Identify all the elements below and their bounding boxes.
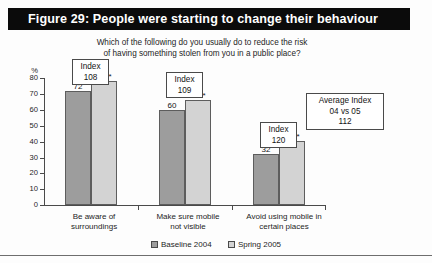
category-label-3-line-2: certain places [234, 222, 334, 232]
bar-baseline-2004-group-1 [65, 91, 91, 205]
index-callout-group-2: Index 109 [166, 72, 203, 98]
bar-baseline-2004-group-2 [159, 110, 185, 205]
y-tick-30 [40, 158, 44, 159]
y-tick-50 [40, 126, 44, 127]
y-tick-label-60: 60 [18, 106, 38, 114]
category-label-3: Avoid using mobile in certain places [234, 212, 334, 232]
y-tick-label-20: 20 [18, 169, 38, 177]
y-tick-label-0: 0 [18, 201, 38, 209]
y-tick-label-80: 80 [18, 74, 38, 82]
bottom-divider [0, 255, 432, 256]
y-tick-80 [40, 78, 44, 79]
index-callout-label-1: Index [73, 62, 108, 73]
x-tick-1 [138, 205, 139, 210]
legend-swatch-spring-icon [228, 241, 235, 248]
legend-label-spring-2005: Spring 2005 [238, 240, 281, 249]
category-label-2: Make sure mobile not visible [142, 212, 234, 232]
legend-item-spring-2005: Spring 2005 [228, 240, 281, 249]
category-label-3-line-1: Avoid using mobile in [234, 212, 334, 222]
bar-spring-2005-group-2 [185, 100, 211, 205]
category-label-2-line-1: Make sure mobile [142, 212, 234, 222]
average-index-line-1: Average Index [307, 96, 383, 107]
figure-title: Figure 29: People were starting to chang… [28, 11, 408, 27]
index-callout-label-3: Index [261, 125, 296, 136]
bar-baseline-2004-group-3 [253, 154, 279, 205]
bar-value-baseline-group-2: 60 [154, 101, 190, 110]
category-label-1-line-1: Be aware of [50, 212, 138, 222]
legend-item-baseline-2004: Baseline 2004 [151, 240, 212, 249]
figure-subtitle: Which of the following do you usually do… [52, 38, 352, 59]
index-callout-group-1: Index 108 [72, 59, 109, 85]
y-tick-label-50: 50 [18, 122, 38, 130]
legend-swatch-baseline-icon [151, 241, 158, 248]
category-label-1: Be aware of surroundings [50, 212, 138, 232]
y-tick-10 [40, 189, 44, 190]
y-tick-0 [40, 205, 44, 206]
x-tick-3 [325, 205, 326, 210]
chart-legend: Baseline 2004 Spring 2005 [0, 240, 432, 249]
y-tick-label-40: 40 [18, 138, 38, 146]
y-tick-label-70: 70 [18, 90, 38, 98]
bar-spring-2005-group-1 [91, 81, 117, 205]
y-axis-line [44, 78, 45, 206]
average-index-callout: Average Index 04 vs 05 112 [306, 93, 384, 130]
legend-label-baseline-2004: Baseline 2004 [161, 240, 212, 249]
average-index-line-2: 04 vs 05 [307, 107, 383, 118]
index-callout-group-3: Index 120 [260, 122, 297, 148]
category-label-2-line-2: not visible [142, 222, 234, 232]
y-tick-70 [40, 94, 44, 95]
index-callout-label-2: Index [167, 75, 202, 86]
figure-container: Figure 29: People were starting to chang… [0, 0, 432, 263]
y-tick-label-30: 30 [18, 154, 38, 162]
subtitle-line-2: of having something stolen from you in a… [52, 49, 352, 60]
y-tick-40 [40, 142, 44, 143]
index-callout-value-3: 120 [261, 136, 296, 147]
x-tick-2 [232, 205, 233, 210]
index-callout-value-2: 109 [167, 86, 202, 97]
y-tick-20 [40, 173, 44, 174]
x-axis-line [44, 205, 326, 206]
y-tick-60 [40, 110, 44, 111]
category-label-1-line-2: surroundings [50, 222, 138, 232]
index-callout-value-1: 108 [73, 73, 108, 84]
subtitle-line-1: Which of the following do you usually do… [52, 38, 352, 49]
y-tick-label-10: 10 [18, 185, 38, 193]
average-index-line-3: 112 [307, 117, 383, 128]
